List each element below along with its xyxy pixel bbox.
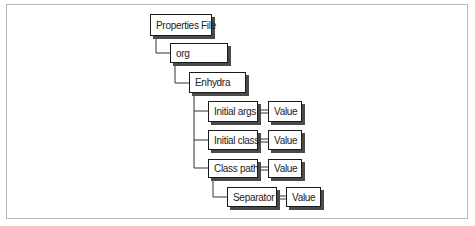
node-separator: Separator — [227, 187, 277, 207]
node-label: Value — [274, 106, 297, 117]
node-label: Initial class — [214, 135, 259, 146]
node-label: Initial args — [214, 106, 256, 117]
node-class-path-value: Value — [268, 159, 302, 178]
node-label: Separator — [233, 192, 274, 203]
node-initial-args: Initial args — [208, 101, 258, 122]
node-properties-file: Properties File — [150, 14, 212, 36]
node-label: Enhydra — [195, 77, 230, 88]
node-enhydra: Enhydra — [189, 72, 246, 93]
node-label: Value — [292, 192, 315, 203]
node-org: org — [170, 43, 228, 63]
node-label: Value — [274, 163, 297, 174]
node-initial-class-value: Value — [268, 130, 302, 150]
node-label: Properties File — [156, 20, 216, 31]
node-initial-class: Initial class — [208, 130, 258, 150]
node-label: Value — [274, 135, 297, 146]
node-initial-args-value: Value — [268, 101, 302, 122]
node-separator-value: Value — [286, 187, 321, 207]
node-label: Class path — [214, 163, 258, 174]
node-label: org — [176, 48, 190, 59]
node-class-path: Class path — [208, 159, 258, 178]
